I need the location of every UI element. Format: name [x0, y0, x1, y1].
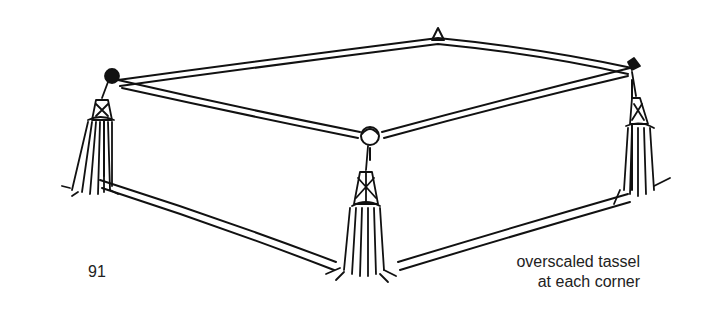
figure-caption: overscaled tassel at each corner [470, 252, 640, 292]
illustration-page: 91 overscaled tassel at each corner [0, 0, 710, 320]
tassel-right [614, 58, 670, 204]
front-corner-ring [361, 127, 379, 145]
tassel-left [62, 69, 119, 196]
caption-line-2: at each corner [470, 272, 640, 292]
table-top [118, 28, 632, 138]
caption-line-1: overscaled tassel [470, 252, 640, 272]
figure-number: 91 [88, 263, 106, 281]
